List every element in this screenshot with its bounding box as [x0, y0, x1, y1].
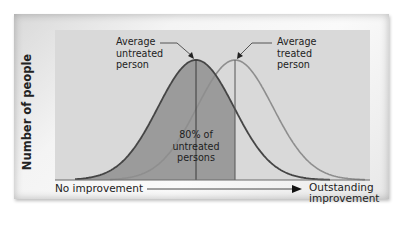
percent-untreated-label: 80% of untreated persons	[160, 129, 232, 164]
x-axis-right-label: Outstanding improvement	[309, 182, 379, 204]
pct-line3: persons	[160, 152, 232, 164]
avg-untreated-line2: untreated	[116, 48, 163, 60]
x-axis-arrowhead-icon	[292, 185, 302, 193]
avg-treated-line1: Average	[277, 36, 316, 48]
pct-line1: 80% of	[160, 129, 232, 141]
avg-treated-line3: person	[277, 59, 316, 71]
pct-line2: untreated	[160, 141, 232, 153]
avg-untreated-line1: Average	[116, 36, 163, 48]
x-axis-left-label: No improvement	[55, 183, 143, 195]
avg-untreated-line3: person	[116, 59, 163, 71]
avg-treated-label: Average treated person	[277, 36, 316, 71]
avg-untreated-label: Average untreated person	[116, 36, 163, 71]
avg-treated-line2: treated	[277, 48, 316, 60]
x-right-line2: improvement	[309, 193, 379, 204]
y-axis-label: Number of people	[20, 54, 34, 170]
